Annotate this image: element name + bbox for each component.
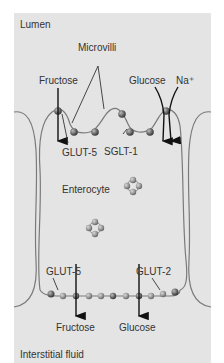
- enterocyte-label: Enterocyte: [62, 184, 110, 195]
- neighbor-cell-right: [188, 112, 211, 307]
- glut5-apical-label: GLUT-5: [62, 147, 97, 158]
- neighbor-cell-left: [14, 112, 37, 307]
- enterocyte-membrane: [39, 108, 187, 290]
- fructose-lumen-label: Fructose: [39, 75, 78, 86]
- apical-transporters: [54, 107, 170, 136]
- sglt1-label: SGLT-1: [104, 146, 138, 157]
- basolateral-membrane: [40, 289, 180, 300]
- glut5-basal-label: GLUT-5: [46, 266, 81, 277]
- glut2-label: GLUT-2: [136, 266, 171, 277]
- sglt1-transporter: [126, 128, 134, 136]
- leader-lines: [53, 66, 160, 290]
- sodium-label: Na⁺: [176, 75, 194, 86]
- enterocyte-diagram: Lumen Microvilli Fructose Glucose Na⁺ GL…: [0, 0, 224, 363]
- glucose-lumen-label: Glucose: [129, 75, 166, 86]
- vesicle-cluster-1: [124, 177, 142, 195]
- interstitial-fluid-label: Interstitial fluid: [20, 349, 84, 360]
- microvilli-label: Microvilli: [78, 42, 116, 53]
- fructose-interstitial-label: Fructose: [56, 322, 95, 333]
- lumen-label: Lumen: [20, 19, 51, 30]
- glucose-apical-arrow: [155, 87, 164, 141]
- sodium-apical-arrow: [169, 87, 178, 141]
- vesicle-cluster-2: [86, 219, 104, 237]
- glucose-interstitial-label: Glucose: [119, 322, 156, 333]
